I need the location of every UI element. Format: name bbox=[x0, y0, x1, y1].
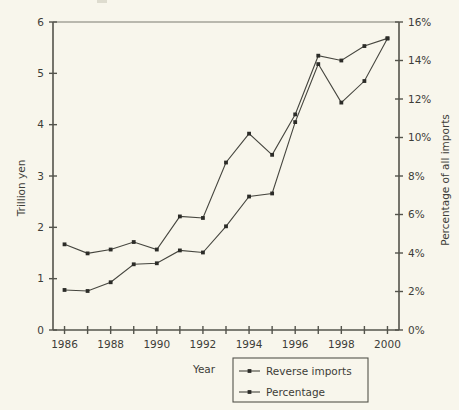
data-point-marker bbox=[270, 192, 274, 196]
y-axis-left-tick-label: 5 bbox=[37, 67, 44, 79]
legend-symbol-marker bbox=[248, 369, 252, 373]
x-axis-tick-label: 1990 bbox=[143, 338, 170, 350]
x-axis-tick-label: 2000 bbox=[374, 338, 401, 350]
legend-symbol-marker bbox=[248, 390, 252, 394]
legend-item-label: Percentage bbox=[266, 386, 325, 398]
data-point-marker bbox=[178, 249, 182, 253]
data-point-marker bbox=[132, 240, 136, 244]
data-point-marker bbox=[109, 280, 113, 284]
chart-container: 0123456 0%2%4%6%8%10%12%14%16% 198619881… bbox=[0, 0, 459, 410]
line-chart: 0123456 0%2%4%6%8%10%12%14%16% 198619881… bbox=[0, 0, 459, 410]
y-axis-left-tick-label: 6 bbox=[37, 16, 44, 28]
data-point-marker bbox=[316, 54, 320, 58]
data-point-marker bbox=[339, 101, 343, 105]
data-point-marker bbox=[201, 216, 205, 220]
y-axis-left-tick-label: 4 bbox=[37, 118, 44, 130]
scan-artifact bbox=[97, 0, 107, 3]
data-point-marker bbox=[247, 132, 251, 136]
legend-item-label: Reverse imports bbox=[266, 365, 352, 377]
x-axis-title: Year bbox=[192, 363, 216, 375]
x-axis-tick-label: 1998 bbox=[328, 338, 355, 350]
data-point-marker bbox=[363, 79, 367, 83]
x-axis-tick-label: 1992 bbox=[190, 338, 217, 350]
y-axis-right-tick-label: 4% bbox=[408, 247, 425, 259]
y-axis-left-tick-label: 0 bbox=[37, 324, 44, 336]
data-point-marker bbox=[293, 120, 297, 124]
data-point-marker bbox=[339, 59, 343, 63]
y-axis-right-tick-label: 6% bbox=[408, 208, 425, 220]
y-axis-right-tick-label: 12% bbox=[408, 93, 431, 105]
y-axis-left-title: Trillion yen bbox=[15, 160, 27, 218]
data-point-marker bbox=[86, 289, 90, 293]
data-point-marker bbox=[155, 248, 159, 252]
y-axis-left-tick-label: 1 bbox=[37, 272, 44, 284]
data-point-marker bbox=[109, 248, 113, 252]
y-axis-right-tick-label: 10% bbox=[408, 131, 431, 143]
x-axis-tick-label: 1994 bbox=[236, 338, 263, 350]
data-point-marker bbox=[270, 153, 274, 157]
data-point-marker bbox=[386, 36, 390, 40]
data-point-marker bbox=[224, 224, 228, 228]
y-axis-right-tick-label: 8% bbox=[408, 170, 425, 182]
data-point-marker bbox=[201, 251, 205, 255]
data-point-marker bbox=[63, 242, 67, 246]
y-axis-left-tick-label: 2 bbox=[37, 221, 44, 233]
data-point-marker bbox=[363, 44, 367, 48]
y-axis-left-tick-label: 3 bbox=[37, 170, 44, 182]
data-point-marker bbox=[178, 215, 182, 219]
y-axis-right-tick-label: 16% bbox=[408, 16, 431, 28]
x-axis-tick-label: 1996 bbox=[282, 338, 309, 350]
data-point-marker bbox=[316, 62, 320, 66]
data-point-marker bbox=[132, 262, 136, 266]
data-point-marker bbox=[155, 261, 159, 265]
y-axis-right-tick-label: 14% bbox=[408, 54, 431, 66]
x-axis-tick-label: 1986 bbox=[51, 338, 78, 350]
data-point-marker bbox=[63, 288, 67, 292]
data-point-marker bbox=[86, 251, 90, 255]
x-axis-tick-label: 1988 bbox=[97, 338, 124, 350]
y-axis-right-title: Percentage of all imports bbox=[439, 114, 451, 246]
data-point-marker bbox=[224, 161, 228, 165]
y-axis-right-tick-label: 2% bbox=[408, 285, 425, 297]
data-point-marker bbox=[293, 113, 297, 117]
y-axis-right-tick-label: 0% bbox=[408, 324, 425, 336]
data-point-marker bbox=[247, 195, 251, 199]
